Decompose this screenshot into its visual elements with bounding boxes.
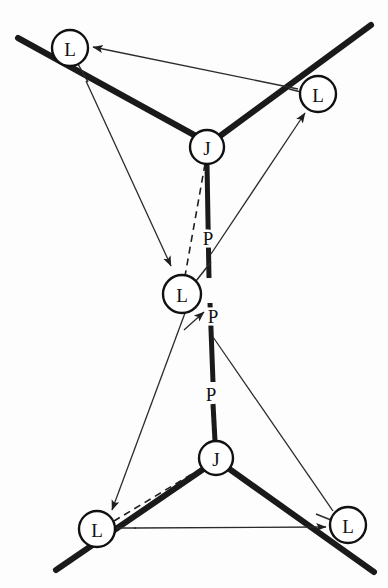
rod-segment-lower (213, 404, 215, 441)
node-j-bottom: J (199, 441, 233, 475)
node-l-middle: L (163, 275, 201, 313)
node-label-l-top-right: L (312, 85, 324, 106)
node-label-l-top-left: L (64, 39, 76, 60)
node-l-top-left: L (52, 30, 88, 66)
node-l-bottom-left: L (79, 511, 115, 547)
rod-segment-upper (207, 164, 209, 278)
node-label-l-middle: L (176, 285, 188, 306)
node-label-j-top: J (203, 138, 210, 159)
node-label-j-bottom: J (212, 449, 219, 470)
p-upper-label: P (203, 228, 214, 249)
node-j-top: J (190, 130, 224, 164)
p-lower-label: P (206, 384, 217, 405)
kinematic-diagram: P P P P P P L L J L (0, 0, 388, 588)
node-l-top-right: L (300, 76, 336, 112)
node-l-bottom-right: L (330, 507, 366, 543)
node-label-l-bottom-right: L (342, 516, 354, 537)
node-label-l-bottom-left: L (91, 520, 103, 541)
diagram-canvas: P P P P P P L L J L (0, 0, 388, 588)
p-middle-label: P (208, 306, 219, 327)
